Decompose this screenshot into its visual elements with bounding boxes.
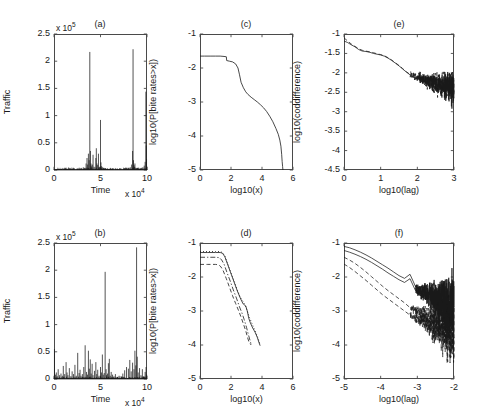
panel-title-f: (f) — [379, 228, 419, 238]
x-axis-label-d: log10(x) — [202, 394, 292, 404]
x-tick-label-a: 5 — [87, 173, 115, 183]
y-tick-label-e: -4 — [310, 145, 340, 155]
x-tick-label-a: 10 — [133, 173, 161, 183]
y-tick-label-d: -3 — [166, 305, 196, 315]
x-tick-label-f: -4 — [367, 382, 395, 392]
y-tick-label-a: 1.5 — [20, 82, 50, 92]
y-tick-label-d: -1 — [166, 237, 196, 247]
x-tick-label-f: -5 — [330, 382, 358, 392]
plot-area-b — [54, 243, 147, 379]
x-tick-label-e: 2 — [403, 173, 431, 183]
x-tick-label-e: 1 — [367, 173, 395, 183]
x-tick-label-d: 0 — [186, 382, 214, 392]
x-tick-label-c: 2 — [217, 173, 245, 183]
x-tick-label-c: 4 — [248, 173, 276, 183]
y-axis-label-e: log10(coddifference) — [292, 61, 302, 143]
plot-area-d — [200, 243, 293, 379]
y-tick-label-e: -3 — [310, 106, 340, 116]
y-axis-label-a: Traffic — [2, 90, 12, 115]
x-tick-label-b: 5 — [87, 382, 115, 392]
x-axis-label-f: log10(lag) — [354, 394, 444, 404]
y-tick-label-b: 1 — [20, 319, 50, 329]
plot-area-c — [200, 34, 293, 170]
y-tick-label-a: 2.5 — [20, 28, 50, 38]
y-tick-label-c: -3 — [166, 96, 196, 106]
y-tick-label-e: -2.5 — [310, 86, 340, 96]
x-tick-label-b: 10 — [133, 382, 161, 392]
panel-title-e: (e) — [379, 19, 419, 29]
x-tick-label-c: 0 — [186, 173, 214, 183]
x-tick-label-e: 0 — [330, 173, 358, 183]
panel-title-d: (d) — [226, 228, 266, 238]
y-axis-label-d: log10(P[bite rates>x]) — [148, 268, 158, 354]
x-tick-label-b: 0 — [40, 382, 68, 392]
y-tick-label-f: -3 — [310, 305, 340, 315]
x-axis-multiplier-a: x 104 — [125, 187, 145, 199]
y-tick-label-b: 1.5 — [20, 291, 50, 301]
y-axis-multiplier-a: x 105 — [56, 21, 76, 33]
plot-area-f — [344, 243, 454, 379]
x-tick-label-f: -2 — [440, 382, 468, 392]
panel-title-a: (a) — [80, 19, 120, 29]
x-tick-label-d: 4 — [248, 382, 276, 392]
plot-area-a — [54, 34, 147, 170]
y-tick-label-e: -1 — [310, 28, 340, 38]
x-tick-label-e: 3 — [440, 173, 468, 183]
y-tick-label-c: -4 — [166, 130, 196, 140]
figure-canvas: (a)00.511.522.50510TimeTrafficx 105x 104… — [0, 0, 480, 420]
x-axis-multiplier-b: x 104 — [125, 396, 145, 408]
y-tick-label-f: -4 — [310, 339, 340, 349]
y-axis-multiplier-b: x 105 — [56, 230, 76, 242]
x-tick-label-c: 6 — [279, 173, 307, 183]
x-tick-label-a: 0 — [40, 173, 68, 183]
plot-area-e — [344, 34, 454, 170]
x-axis-label-e: log10(lag) — [354, 185, 444, 195]
y-tick-label-d: -4 — [166, 339, 196, 349]
x-tick-label-d: 2 — [217, 382, 245, 392]
y-tick-label-c: -1 — [166, 28, 196, 38]
x-axis-label-c: log10(x) — [202, 185, 292, 195]
y-tick-label-f: -2 — [310, 271, 340, 281]
panel-title-b: (b) — [80, 228, 120, 238]
y-tick-label-a: 1 — [20, 110, 50, 120]
y-tick-label-b: 2 — [20, 264, 50, 274]
y-tick-label-b: 0.5 — [20, 346, 50, 356]
y-tick-label-a: 0.5 — [20, 137, 50, 147]
y-tick-label-e: -2 — [310, 67, 340, 77]
y-tick-label-e: -3.5 — [310, 125, 340, 135]
x-tick-label-f: -3 — [403, 382, 431, 392]
y-tick-label-d: -2 — [166, 271, 196, 281]
y-tick-label-b: 2.5 — [20, 237, 50, 247]
y-axis-label-c: log10(P[bite rates>x]) — [148, 59, 158, 145]
y-tick-label-e: -1.5 — [310, 47, 340, 57]
y-tick-label-a: 2 — [20, 55, 50, 65]
panel-title-c: (c) — [226, 19, 266, 29]
y-axis-label-b: Traffic — [2, 299, 12, 324]
y-tick-label-c: -2 — [166, 62, 196, 72]
x-tick-label-d: 6 — [279, 382, 307, 392]
y-tick-label-f: -1 — [310, 237, 340, 247]
y-axis-label-f: log10(coddifference) — [292, 270, 302, 352]
